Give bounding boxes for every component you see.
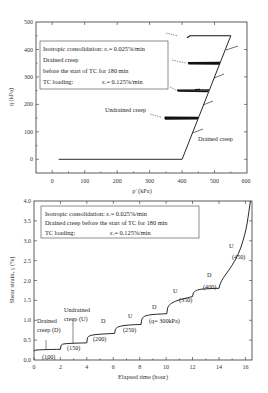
legend-line: TC loading: xyxy=(43,78,74,85)
arrow-icon xyxy=(172,60,186,63)
arrow-icon xyxy=(166,33,178,36)
tick-label: 16 xyxy=(242,364,248,370)
bottom-y-axis-title: Shear strain, γ (%) xyxy=(8,257,16,304)
tick-label: 0 xyxy=(33,364,36,370)
tick-label: 600 xyxy=(242,178,251,184)
top-x-axis-title: p' (kPa) xyxy=(132,187,152,195)
tick-label: 14 xyxy=(216,364,222,370)
top-y-tick-labels: 0 100 200 300 400 500 xyxy=(24,19,33,162)
arrow-icon xyxy=(170,87,176,90)
legend-line: εᵥ= 0.125%/min xyxy=(110,229,151,236)
legend-line: εᵥ= 0.125%/min xyxy=(102,78,143,85)
top-y-axis-title: q (kPa) xyxy=(7,88,15,106)
stage-label: D xyxy=(207,271,212,278)
tick-label: 6 xyxy=(112,364,115,370)
tick-label: 1.5 xyxy=(24,297,32,303)
bottom-chart: 0 2 4 6 8 10 12 14 16 Elapsed time (hour… xyxy=(8,198,252,381)
tick-label: 0.0 xyxy=(24,357,32,363)
tick-label: 10 xyxy=(163,364,169,370)
tick-label: 200 xyxy=(24,101,33,107)
tick-label: 4 xyxy=(85,364,88,370)
drained-creep-label: Drained xyxy=(37,317,58,324)
bottom-x-axis-title: Elapsed time (hour) xyxy=(118,373,168,381)
tick-label: 500 xyxy=(24,19,33,25)
stage-label: (350) xyxy=(179,296,192,304)
bottom-y-tick-labels: 0.0 0.5 1.0 1.5 2.0 2.5 3.0 3.5 4.0 xyxy=(24,198,32,363)
stage-label: (450) xyxy=(232,253,245,261)
tick-label: 8 xyxy=(138,364,141,370)
legend-line: before the start of TC for 180 min xyxy=(43,67,129,74)
legend-line: Isotropic consolidation: εᵥ= 0.025%/min xyxy=(43,45,146,52)
top-chart: 0 100 200 300 400 500 600 p' (kPa) xyxy=(7,19,251,195)
drained-creep-label: creep (D) xyxy=(37,326,61,334)
figure: 0 100 200 300 400 500 600 p' (kPa) xyxy=(0,0,268,393)
tick-label: 500 xyxy=(210,178,219,184)
undrained-creep-label: Undrained creep xyxy=(105,106,146,113)
tick-label: 300 xyxy=(24,74,33,80)
bottom-x-tick-labels: 0 2 4 6 8 10 12 14 16 xyxy=(33,364,249,370)
undrained-creep-segments xyxy=(164,36,231,120)
tick-label: 2.5 xyxy=(24,258,32,264)
legend-line: Isotropic consolidation: εᵥ= 0.025%/min xyxy=(45,210,148,217)
tick-label: 200 xyxy=(113,178,122,184)
bottom-y-ticks xyxy=(34,221,252,340)
undrained-creep-label: Undrained xyxy=(64,306,91,313)
stage-label: (400) xyxy=(203,283,216,291)
stage-label: (250) xyxy=(123,326,136,334)
tick-label: 400 xyxy=(24,47,33,53)
undrained-creep-label: creep (U) xyxy=(64,315,88,323)
stage-label: (150) xyxy=(67,344,80,352)
tick-label: 400 xyxy=(178,178,187,184)
tick-label: 2.0 xyxy=(24,278,32,284)
drained-creep-label: Drained creep xyxy=(198,135,233,142)
stage-label: D xyxy=(152,303,157,310)
stage-label: U xyxy=(173,287,178,294)
legend-line: TC loading: xyxy=(45,229,76,236)
stage-label: D xyxy=(101,317,106,324)
stage-label: (200) xyxy=(93,335,106,343)
tick-label: 100 xyxy=(24,129,33,135)
tick-label: 3.5 xyxy=(24,218,32,224)
tick-label: 12 xyxy=(190,364,196,370)
legend-line: Drained creep before the start of TC for… xyxy=(45,219,168,226)
stage-label: U xyxy=(229,242,234,249)
tick-label: 3.0 xyxy=(24,238,32,244)
tick-label: 300 xyxy=(145,178,154,184)
tick-label: 0 xyxy=(30,156,33,162)
stage-label: (100) xyxy=(42,353,55,361)
tick-label: 100 xyxy=(80,178,89,184)
stage-label: (q= 300kPa) xyxy=(149,317,180,325)
tick-label: 2 xyxy=(59,364,62,370)
tick-label: 1.0 xyxy=(24,317,32,323)
arrow-icon xyxy=(150,114,162,118)
top-x-tick-labels: 0 100 200 300 400 500 600 xyxy=(51,178,251,184)
stage-label: U xyxy=(128,312,133,319)
tick-label: 0 xyxy=(51,178,54,184)
legend-line: Drained creep xyxy=(43,56,79,63)
tick-label: 0.5 xyxy=(24,337,32,343)
bottom-annotations: Drained creep (D) Undrained creep (U) (1… xyxy=(37,242,245,361)
tick-label: 4.0 xyxy=(24,198,32,204)
